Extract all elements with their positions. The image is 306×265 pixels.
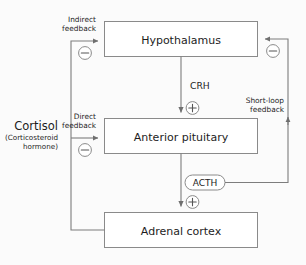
edge-cortisol-trunk <box>71 41 105 230</box>
acth-label: ACTH <box>193 178 218 188</box>
node-hypothalamus-label: Hypothalamus <box>141 34 221 47</box>
short-loop-feedback-label-line2: feedback <box>250 105 285 114</box>
node-hypothalamus[interactable]: Hypothalamus <box>105 22 258 57</box>
acth-plus-badge <box>186 196 199 209</box>
cortisol-subtitle-line1: (Corticosteroid <box>5 133 58 142</box>
cortisol-subtitle-line2: hormone) <box>23 142 58 151</box>
diagram-canvas: Hypothalamus Anterior pituitary Adrenal … <box>0 0 306 265</box>
short-loop-minus-badge <box>267 45 280 58</box>
node-adrenal-cortex-label: Adrenal cortex <box>141 225 222 238</box>
node-anterior-pituitary-label: Anterior pituitary <box>134 131 229 144</box>
crh-label: CRH <box>190 80 210 91</box>
indirect-feedback-label-line1: Indirect <box>68 15 96 24</box>
acth-pill[interactable]: ACTH <box>185 175 225 190</box>
direct-feedback-label-line2: feedback <box>62 121 97 130</box>
indirect-feedback-group: Indirect feedback <box>62 15 97 33</box>
direct-feedback-minus-badge <box>79 144 92 157</box>
direct-feedback-group: Direct feedback <box>62 112 97 130</box>
cortisol-label-group: Cortisol (Corticosteroid hormone) <box>5 119 58 151</box>
node-anterior-pituitary[interactable]: Anterior pituitary <box>105 119 258 154</box>
short-loop-feedback-label-line1: Short-loop <box>246 96 285 105</box>
indirect-feedback-label-line2: feedback <box>62 24 97 33</box>
edge-short-loop-feedback: Short-loop feedback <box>225 39 288 183</box>
indirect-feedback-minus-badge <box>79 47 92 60</box>
direct-feedback-label-line1: Direct <box>74 112 96 121</box>
node-adrenal-cortex[interactable]: Adrenal cortex <box>105 213 258 248</box>
crh-plus-badge <box>186 102 199 115</box>
cortisol-name: Cortisol <box>14 119 58 133</box>
